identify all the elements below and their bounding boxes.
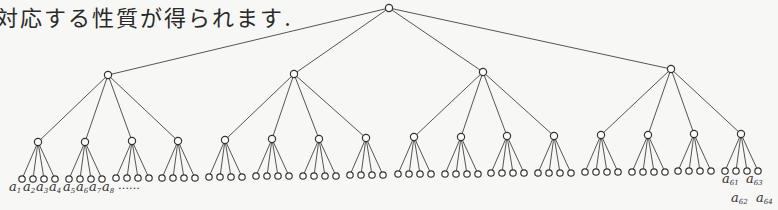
leaf-node	[593, 169, 599, 175]
tree-edge	[108, 75, 178, 141]
level2-node	[128, 137, 135, 144]
root-node	[385, 4, 392, 11]
tree-edge	[671, 69, 694, 134]
leaf-node	[217, 174, 223, 180]
tree-edge	[483, 72, 507, 136]
leaf-label: a64	[756, 190, 773, 206]
tree-edge	[389, 8, 671, 69]
level2-node	[362, 134, 369, 141]
level1-node	[667, 65, 674, 72]
leaf-node	[253, 173, 259, 179]
leaf-node	[322, 173, 328, 179]
tree-edge	[225, 74, 294, 140]
level2-node	[81, 138, 88, 145]
leaf-node	[733, 168, 739, 174]
tree-edge	[648, 69, 671, 135]
leaf-node	[755, 168, 761, 174]
tree-edge	[389, 8, 483, 72]
level2-node	[268, 135, 275, 142]
level1-node	[104, 71, 111, 78]
level1-node	[479, 68, 486, 75]
leaf-node	[662, 169, 668, 175]
leaf-node	[488, 170, 494, 176]
tree-edge	[483, 72, 554, 136]
leaf-label: a6	[76, 179, 89, 195]
leaf-label: a4	[49, 179, 61, 195]
leaf-node	[604, 169, 610, 175]
tree-edge	[108, 75, 132, 141]
leaf-node	[557, 170, 563, 176]
tree-edge	[294, 74, 366, 138]
level2-node	[174, 137, 181, 144]
leaf-node	[582, 169, 588, 175]
leaf-node	[275, 173, 281, 179]
tree-edge	[671, 69, 741, 134]
leaf-node	[615, 169, 621, 175]
leaf-node	[453, 171, 459, 177]
leaf-node	[192, 175, 198, 181]
tree-edge	[294, 74, 319, 139]
leaf-node	[406, 171, 412, 177]
tree-edge	[601, 69, 671, 135]
leaf-node	[369, 172, 375, 178]
level2-node	[550, 132, 557, 139]
tree-diagram-figure: 対応する性質が得られます. a1a2a3a4a5a6a7a8a61a62a63a…	[0, 0, 778, 210]
leaf-node	[380, 172, 386, 178]
leaf-node	[333, 173, 339, 179]
level2-node	[34, 138, 41, 145]
level2-node	[315, 135, 322, 142]
leaf-node	[442, 171, 448, 177]
leaf-label: a5	[63, 179, 76, 195]
leaf-node	[417, 171, 423, 177]
leaf-node	[358, 172, 364, 178]
leaf-node	[675, 168, 681, 174]
leaf-label: a8	[102, 179, 115, 195]
leaf-node	[300, 173, 306, 179]
level2-node	[221, 136, 228, 143]
tree-edge	[38, 75, 108, 142]
leaf-node	[206, 174, 212, 180]
leaf-node	[521, 170, 527, 176]
leaf-node	[159, 175, 165, 181]
leaf-node	[568, 170, 574, 176]
leaf-node	[146, 175, 152, 181]
leaf-node	[708, 168, 714, 174]
leaf-node	[181, 175, 187, 181]
level2-node	[644, 131, 651, 138]
tree-edge	[85, 75, 108, 142]
level1-node	[290, 70, 297, 77]
level2-node	[410, 133, 417, 140]
leaf-node	[499, 170, 505, 176]
tree-edge	[272, 74, 294, 139]
leaf-label: a62	[731, 190, 748, 206]
level2-node	[503, 132, 510, 139]
tree-edge	[108, 8, 389, 75]
leaf-node	[475, 171, 481, 177]
tree-edge	[414, 72, 483, 137]
leaf-node	[464, 171, 470, 177]
quaternary-tree: a1a2a3a4a5a6a7a8a61a62a63a64……	[0, 0, 778, 210]
leaf-node	[640, 169, 646, 175]
level2-node	[690, 130, 697, 137]
leaf-node	[510, 170, 516, 176]
ellipsis: ……	[118, 179, 140, 192]
level2-node	[737, 130, 744, 137]
leaf-node	[239, 174, 245, 180]
leaf-node	[311, 173, 317, 179]
leaf-node	[629, 169, 635, 175]
leaf-node	[697, 168, 703, 174]
leaf-node	[347, 172, 353, 178]
leaf-node	[264, 173, 270, 179]
leaf-node	[428, 171, 434, 177]
leaf-node	[535, 170, 541, 176]
leaf-node	[395, 171, 401, 177]
leaf-node	[651, 169, 657, 175]
level2-node	[597, 131, 604, 138]
leaf-node	[686, 168, 692, 174]
tree-edge	[294, 8, 389, 74]
level2-node	[457, 133, 464, 140]
leaf-node	[228, 174, 234, 180]
leaf-node	[170, 175, 176, 181]
leaf-node	[546, 170, 552, 176]
leaf-node	[286, 173, 292, 179]
